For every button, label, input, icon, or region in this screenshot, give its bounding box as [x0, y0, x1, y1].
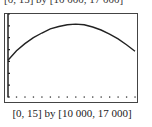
curve-line [8, 24, 135, 60]
x-axis-ticks [7, 96, 135, 97]
window-caption: [0, 15] by [10 000, 17 000] [0, 107, 144, 119]
